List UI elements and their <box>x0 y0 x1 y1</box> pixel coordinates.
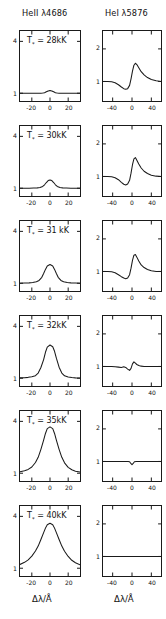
temp-value: = 31 kK <box>35 226 69 235</box>
xtick-r1-c0-1: 0 <box>41 199 59 206</box>
profile-curve-r3-c1 <box>103 316 161 386</box>
xtick-r2-c1-2: 40 <box>143 294 161 301</box>
xtick-r4-c0-0: -20 <box>22 484 40 491</box>
temp-value: = 28kK <box>35 36 67 45</box>
ytick-r4-c1-1: 1 <box>89 458 100 465</box>
ytick-r1-c1-0: 2 <box>89 139 100 146</box>
ytick-r2-c1-0: 2 <box>89 234 100 241</box>
xtick-r4-c1-2: 40 <box>143 484 161 491</box>
xtick-r0-c1-1: 0 <box>123 104 141 111</box>
temperature-label-r0: T* = 28kK <box>27 36 66 47</box>
panel-r5-c1 <box>102 505 162 577</box>
xtick-r2-c0-1: 0 <box>41 294 59 301</box>
panel-r0-c1 <box>102 30 162 102</box>
xtick-r5-c1-2: 40 <box>143 579 161 586</box>
xtick-r0-c0-2: 20 <box>60 104 78 111</box>
column-header-0: HeII λ4686 <box>22 8 67 18</box>
ytick-r3-c1-1: 1 <box>89 363 100 370</box>
xtick-r1-c0-2: 20 <box>60 199 78 206</box>
ytick-r2-c0-1: 1 <box>6 280 17 287</box>
xtick-r5-c0-1: 0 <box>41 579 59 586</box>
ytick-r5-c0-0: 4 <box>6 512 17 519</box>
xtick-r0-c0-0: -20 <box>22 104 40 111</box>
column-header-1: HeI λ5876 <box>105 8 148 18</box>
temp-value: = 35kK <box>35 416 67 425</box>
xtick-r1-c1-0: -40 <box>103 199 121 206</box>
ytick-r2-c0-0: 4 <box>6 227 17 234</box>
ytick-r1-c1-1: 1 <box>89 173 100 180</box>
xtick-r4-c1-1: 0 <box>123 484 141 491</box>
ytick-r2-c1-1: 1 <box>89 268 100 275</box>
profile-curve-r4-c1 <box>103 411 161 481</box>
xtick-r5-c0-2: 20 <box>60 579 78 586</box>
xtick-r1-c0-0: -20 <box>22 199 40 206</box>
temp-value: = 32kK <box>35 321 67 330</box>
xtick-r5-c1-0: -40 <box>103 579 121 586</box>
temperature-label-r3: T* = 32kK <box>27 321 66 332</box>
temp-value: = 40kK <box>35 511 67 520</box>
temperature-label-r4: T* = 35kK <box>27 416 66 427</box>
ytick-r1-c0-0: 4 <box>6 132 17 139</box>
xtick-r2-c0-2: 20 <box>60 294 78 301</box>
xtick-r5-c1-1: 0 <box>123 579 141 586</box>
xaxis-label-c1: Δλ/Å <box>114 594 134 604</box>
xtick-r0-c0-1: 0 <box>41 104 59 111</box>
xtick-r5-c0-0: -20 <box>22 579 40 586</box>
ytick-r0-c0-1: 1 <box>6 90 17 97</box>
xtick-r3-c0-1: 0 <box>41 389 59 396</box>
panel-r4-c1 <box>102 410 162 482</box>
ytick-r1-c0-1: 1 <box>6 185 17 192</box>
xtick-r3-c1-2: 40 <box>143 389 161 396</box>
xtick-r4-c0-2: 20 <box>60 484 78 491</box>
panel-r2-c1 <box>102 220 162 292</box>
xtick-r2-c1-1: 0 <box>123 294 141 301</box>
xtick-r1-c1-1: 0 <box>123 199 141 206</box>
ytick-r3-c0-0: 4 <box>6 322 17 329</box>
ytick-r4-c1-0: 2 <box>89 424 100 431</box>
ytick-r0-c1-0: 2 <box>89 44 100 51</box>
xaxis-label-c0: Δλ/Å <box>32 594 52 604</box>
profile-curve-r5-c1 <box>103 506 161 576</box>
panel-r1-c1 <box>102 125 162 197</box>
xtick-r3-c0-2: 20 <box>60 389 78 396</box>
profile-curve-r0-c1 <box>103 31 161 101</box>
ytick-r3-c0-1: 1 <box>6 375 17 382</box>
temperature-label-r1: T* = 30kK <box>27 131 66 142</box>
xtick-r4-c0-1: 0 <box>41 484 59 491</box>
ytick-r4-c0-0: 4 <box>6 417 17 424</box>
xtick-r4-c1-0: -40 <box>103 484 121 491</box>
figure-root: HeII λ4686HeI λ587641-20020T* = 28kK41-2… <box>0 0 166 619</box>
profile-curve-r1-c1 <box>103 126 161 196</box>
xtick-r2-c1-0: -40 <box>103 294 121 301</box>
profile-curve-r2-c1 <box>103 221 161 291</box>
ytick-r0-c1-1: 1 <box>89 78 100 85</box>
temperature-label-r2: T* = 31 kK <box>27 226 69 237</box>
xtick-r3-c0-0: -20 <box>22 389 40 396</box>
temp-value: = 30kK <box>35 131 67 140</box>
ytick-r5-c1-1: 1 <box>89 553 100 560</box>
xtick-r3-c1-0: -40 <box>103 389 121 396</box>
panel-r3-c1 <box>102 315 162 387</box>
ytick-r5-c0-1: 1 <box>6 565 17 572</box>
xtick-r0-c1-0: -40 <box>103 104 121 111</box>
temperature-label-r5: T* = 40kK <box>27 511 66 522</box>
ytick-r0-c0-0: 4 <box>6 37 17 44</box>
ytick-r3-c1-0: 2 <box>89 329 100 336</box>
ytick-r4-c0-1: 1 <box>6 470 17 477</box>
xtick-r3-c1-1: 0 <box>123 389 141 396</box>
ytick-r5-c1-0: 2 <box>89 519 100 526</box>
xtick-r2-c0-0: -20 <box>22 294 40 301</box>
xtick-r1-c1-2: 40 <box>143 199 161 206</box>
xtick-r0-c1-2: 40 <box>143 104 161 111</box>
